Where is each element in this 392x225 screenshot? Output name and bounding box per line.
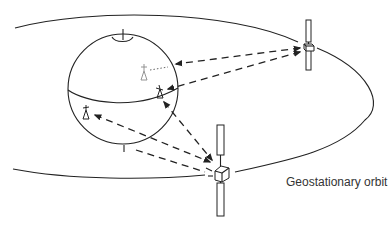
hidden-link	[150, 67, 168, 70]
earth-globe	[68, 29, 178, 152]
link-satB-right	[164, 102, 212, 160]
ground-station-hidden-icon	[141, 64, 147, 80]
link-satA-right	[168, 52, 300, 89]
orbit-path-back	[15, 15, 298, 42]
orbit-label: Geostationary orbit	[286, 175, 387, 189]
satellite-b-icon	[206, 125, 229, 216]
ground-station-left-icon	[83, 105, 89, 119]
equator-line	[68, 88, 178, 103]
link-satA-hidden	[176, 48, 300, 64]
orbit-diagram	[0, 0, 392, 225]
earth-outline	[68, 34, 178, 144]
orbit-path-right	[235, 48, 374, 172]
orbit-path-front	[13, 169, 205, 178]
satellite-a-icon	[304, 20, 314, 70]
link-satB-extra	[136, 150, 205, 172]
